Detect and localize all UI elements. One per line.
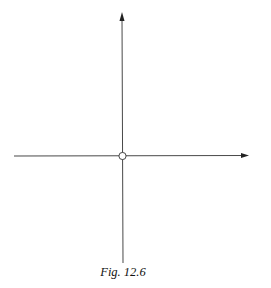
vertical-axis-arrowhead-icon xyxy=(120,12,125,21)
figure-caption: Fig. 12.6 xyxy=(0,265,246,280)
vertical-axis xyxy=(122,18,123,263)
figure-canvas xyxy=(0,0,271,288)
horizontal-axis xyxy=(14,156,244,157)
origin-open-circle xyxy=(119,152,126,159)
horizontal-axis-arrowhead-icon xyxy=(241,153,249,158)
